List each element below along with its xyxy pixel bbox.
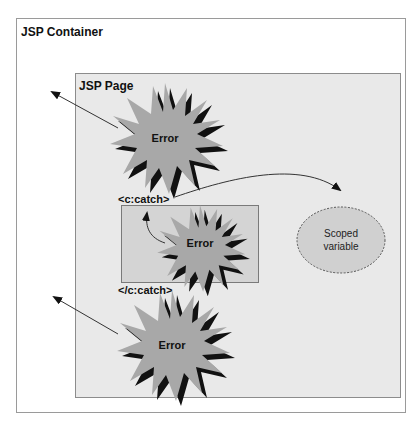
error-label-inner: Error <box>170 237 230 249</box>
arrow-top-error-to-container <box>52 92 118 128</box>
arrow-catch-to-scoped-variable <box>175 174 340 197</box>
error-burst-icon <box>157 205 250 296</box>
scoped-variable-label: Scoped variable <box>306 227 376 253</box>
arrow-bottom-error-to-container <box>54 297 118 334</box>
arrow-inner-error-to-catch <box>147 213 165 243</box>
error-label-bottom: Error <box>142 339 202 351</box>
error-label-top: Error <box>135 132 195 144</box>
scoped-variable-line1: Scoped <box>306 227 376 240</box>
diagram-graphics <box>0 0 419 427</box>
scoped-variable-line2: variable <box>306 240 376 253</box>
